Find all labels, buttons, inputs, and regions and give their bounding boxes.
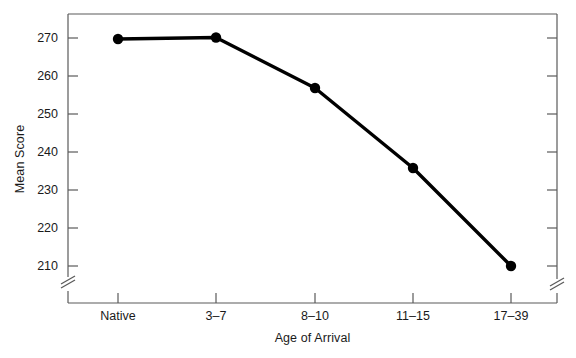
x-tick-label: 3–7 [171,309,261,323]
x-tick-label: 17–39 [466,309,556,323]
x-tick-label: 8–10 [270,309,360,323]
x-tick-label: 11–15 [368,309,458,323]
x-tick-label: Native [73,309,163,323]
chart-figure: Mean Score Age of Arrival [0,0,576,358]
x-axis-tick-labels: Native 3–7 8–10 11–15 17–39 [0,0,576,358]
